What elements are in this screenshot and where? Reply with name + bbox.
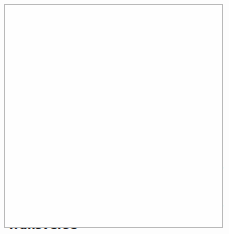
label-facet-joint-line2: Joint	[55, 76, 118, 89]
label-transverse-process: Transverse Process	[8, 194, 82, 234]
illustration-canvas: Facet Joint Body Pedicle Spinal Canal Sp…	[5, 5, 224, 229]
label-body-line1: Body	[8, 82, 54, 95]
anatomy-figure: Facet Joint Body Pedicle Spinal Canal Sp…	[0, 0, 229, 234]
label-transverse-process-line1: Transverse	[8, 219, 82, 232]
label-facet-joint: Facet Joint	[55, 13, 118, 113]
label-body: Body	[8, 57, 54, 120]
label-spinous-process-line1: Spinous	[153, 164, 223, 177]
leader-transverse-process	[37, 149, 61, 193]
leader-spinal-canal	[129, 117, 158, 121]
leader-lamina	[111, 165, 125, 188]
label-spinous-process-line2: Process	[153, 202, 223, 215]
label-facet-joint-line1: Facet	[55, 38, 118, 51]
label-spinous-process: Spinous Process	[153, 139, 223, 234]
leader-pedicle	[117, 79, 158, 97]
